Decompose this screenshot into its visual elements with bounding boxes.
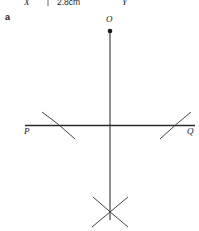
point-label-o: O [106, 15, 113, 24]
measurement-label: 2.8cm [57, 0, 80, 7]
point-label-p: P [24, 127, 30, 136]
part-label-a: a [5, 13, 10, 22]
point-label-x: X [24, 0, 30, 7]
point-o-dot [108, 29, 113, 34]
point-label-q: Q [187, 127, 194, 136]
geometry-construction-diagram [0, 0, 199, 231]
figure-canvas: a X 2.8cm Y O P Q [0, 0, 199, 231]
point-label-y: Y [122, 0, 127, 7]
